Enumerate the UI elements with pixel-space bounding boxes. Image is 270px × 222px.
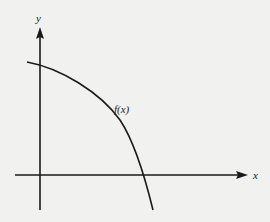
graph-canvas: y x f(x) bbox=[0, 0, 270, 222]
y-axis bbox=[36, 27, 44, 210]
x-axis-label: x bbox=[252, 169, 258, 181]
y-axis-label: y bbox=[35, 12, 41, 24]
function-graph: y x f(x) bbox=[0, 0, 270, 222]
curve-f-of-x bbox=[27, 62, 153, 210]
curve-label: f(x) bbox=[114, 103, 130, 116]
x-axis bbox=[15, 171, 248, 179]
